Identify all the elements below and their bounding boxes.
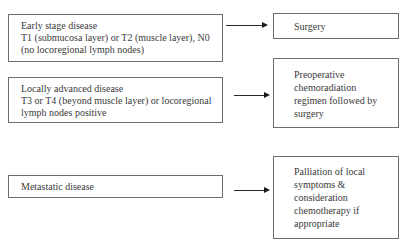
treatment-text: symptoms & (294, 178, 398, 191)
treatment-text: Surgery (294, 21, 398, 33)
arrow-right-icon (234, 190, 268, 191)
arrowhead-icon (264, 92, 270, 98)
arrowhead-icon (264, 187, 270, 193)
stage-detail: lymph nodes positive (21, 107, 222, 119)
arrow-right-icon (234, 95, 268, 96)
stage-label: Metastatic disease (21, 181, 222, 193)
treatment-text: appropriate (294, 217, 398, 230)
treatment-text: chemotherapy if (294, 204, 398, 217)
stage-box-early: Early stage disease T1 (submucosa layer)… (8, 14, 223, 62)
stage-label: Early stage disease (21, 20, 222, 32)
treatment-text: Palliation of local (294, 165, 398, 178)
treatment-text: regimen followed by (294, 94, 398, 107)
treatment-text: Preoperative (294, 68, 398, 81)
stage-detail: T3 or T4 (beyond muscle layer) or locore… (21, 95, 222, 107)
treatment-text: chemoradiation (294, 81, 398, 94)
treatment-text: surgery (294, 107, 398, 120)
stage-detail: T1 (submucosa layer) or T2 (muscle layer… (21, 32, 222, 44)
stage-detail: (no locoregional lymph nodes) (21, 44, 222, 56)
stage-label: Locally advanced disease (21, 83, 222, 95)
treatment-box-preoperative-chemoradiation: Preoperative chemoradiation regimen foll… (273, 58, 399, 128)
arrow-right-icon (226, 25, 266, 26)
treatment-box-surgery: Surgery (273, 13, 399, 39)
treatment-box-palliation: Palliation of local symptoms & considera… (273, 156, 399, 239)
stage-box-locally-advanced: Locally advanced disease T3 or T4 (beyon… (8, 77, 223, 123)
stage-box-metastatic: Metastatic disease (8, 175, 223, 198)
treatment-text: consideration (294, 191, 398, 204)
arrowhead-icon (262, 22, 268, 28)
